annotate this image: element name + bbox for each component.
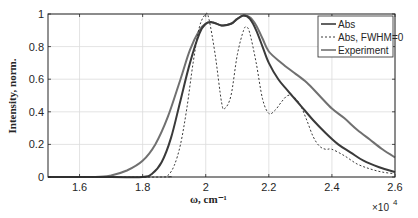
x-tick-label: 2.2 xyxy=(261,181,276,193)
y-tick-label: 0 xyxy=(38,171,44,183)
x-tick-label: 1.6 xyxy=(72,181,87,193)
x-axis-label: ω, cm⁻¹ xyxy=(190,193,227,205)
x-tick-label: 1.8 xyxy=(135,181,150,193)
y-tick-label: 0.6 xyxy=(29,73,44,85)
y-tick-label: 0.4 xyxy=(29,106,44,118)
x-exponent-power: 4 xyxy=(393,198,398,207)
x-tick-label: 2.6 xyxy=(387,181,402,193)
y-tick-label: 1 xyxy=(38,8,44,20)
x-exponent-base: ×10 xyxy=(372,202,389,213)
y-axis-label: Intensity, norm. xyxy=(6,58,18,133)
x-tick-label: 2.4 xyxy=(324,181,339,193)
legend-label: Abs xyxy=(338,19,355,30)
legend: AbsAbs, FWHM=0Experiment xyxy=(318,16,404,57)
legend-label: Experiment xyxy=(338,45,389,56)
legend-label: Abs, FWHM=0 xyxy=(338,32,404,43)
y-tick-label: 0.2 xyxy=(29,138,44,150)
y-tick-label: 0.8 xyxy=(29,41,44,53)
x-tick-label: 2 xyxy=(203,181,209,193)
spectrum-chart: 1.61.822.22.42.6 00.20.40.60.81 ω, cm⁻¹ … xyxy=(0,0,418,218)
